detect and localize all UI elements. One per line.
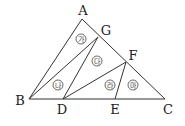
region-na: 나 bbox=[53, 80, 63, 90]
region-label-ga: 가 bbox=[78, 35, 85, 44]
point-label-A: A bbox=[77, 3, 88, 18]
region-label-da: 다 bbox=[94, 57, 101, 66]
region-ga: 가 bbox=[76, 34, 86, 44]
segment-DG bbox=[63, 37, 98, 99]
region-ra: 라 bbox=[105, 80, 115, 90]
region-label-na: 나 bbox=[55, 81, 62, 90]
region-da: 다 bbox=[92, 56, 102, 66]
point-label-G: G bbox=[101, 23, 111, 38]
point-label-C: C bbox=[163, 102, 173, 117]
point-label-D: D bbox=[57, 102, 67, 117]
region-ma: 마 bbox=[128, 80, 138, 90]
point-label-B: B bbox=[15, 93, 25, 108]
region-label-ra: 라 bbox=[107, 81, 114, 90]
point-label-E: E bbox=[110, 102, 120, 117]
point-label-F: F bbox=[128, 48, 137, 63]
region-label-ma: 마 bbox=[130, 81, 137, 90]
triangle-diagram: A G F B D E C 가 나 다 라 마 bbox=[0, 0, 185, 126]
